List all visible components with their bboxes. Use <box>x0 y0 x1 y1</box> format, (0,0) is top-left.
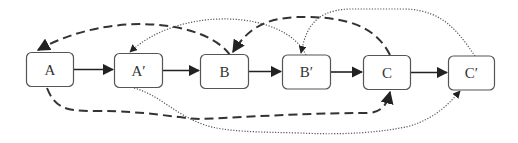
flow-diagram: A A′ B B′ C C′ <box>0 0 518 143</box>
node-a-prime-label: A′ <box>131 63 145 79</box>
node-b-prime-label: B′ <box>300 64 313 80</box>
edge-c-to-b <box>233 17 390 55</box>
node-b-label: B <box>219 64 229 80</box>
node-b-prime: B′ <box>283 55 331 89</box>
edge-a-to-c <box>47 88 390 119</box>
edge-b-to-a <box>38 24 230 55</box>
edge-a2-to-c2 <box>134 88 460 134</box>
edge-c2-to-b2 <box>301 9 475 56</box>
node-c-prime: C′ <box>449 56 495 90</box>
edge-b2-to-a2 <box>130 19 306 55</box>
node-a-label: A <box>45 62 56 78</box>
node-c-label: C <box>382 65 392 81</box>
node-b: B <box>201 55 249 89</box>
node-a: A <box>27 53 74 87</box>
node-a-prime: A′ <box>115 54 163 88</box>
node-c: C <box>364 56 411 90</box>
node-c-prime-label: C′ <box>465 65 478 81</box>
